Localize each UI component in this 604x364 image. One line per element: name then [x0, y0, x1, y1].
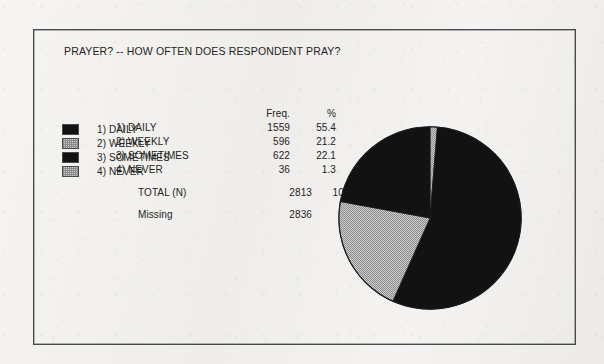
- legend-label-weekly: 2) WEEKLY: [97, 138, 151, 149]
- legend: [62, 122, 79, 179]
- row-freq: 36: [242, 164, 290, 175]
- total-freq: 2813: [264, 187, 312, 198]
- legend-label-row: 1) DAILY: [97, 122, 170, 136]
- legend-swatch-sometimes: [62, 152, 79, 163]
- row-pct: 55.4: [290, 122, 336, 133]
- legend-labels: 1) DAILY 2) WEEKLY 3) SOMETIMES 4) NEVER: [97, 122, 170, 179]
- legend-label-row: 2) WEEKLY: [97, 136, 170, 150]
- legend-label-sometimes: 3) SOMETIMES: [97, 152, 170, 163]
- row-freq: 596: [242, 136, 290, 147]
- row-freq: 622: [242, 150, 290, 161]
- missing-label: Missing: [116, 209, 264, 220]
- legend-item: [62, 122, 79, 136]
- row-freq: 1559: [242, 122, 290, 133]
- legend-label-daily: 1) DAILY: [97, 124, 138, 135]
- pie-slices: [339, 127, 521, 309]
- row-pct: 22.1: [290, 150, 336, 161]
- pie-chart: [338, 126, 522, 310]
- table-spacer: [116, 199, 358, 207]
- legend-swatch-daily: [62, 124, 79, 135]
- table-total-row: TOTAL (N) 2813 100.0: [116, 185, 358, 199]
- legend-item: [62, 165, 79, 179]
- legend-swatch-never: [62, 166, 79, 177]
- total-label: TOTAL (N): [116, 187, 264, 198]
- table-missing-row: Missing 2836: [116, 207, 358, 221]
- column-header-pct: %: [290, 108, 336, 119]
- row-pct: 21.2: [290, 136, 336, 147]
- legend-label-row: 3) SOMETIMES: [97, 150, 170, 164]
- pie-chart-svg: [338, 126, 522, 310]
- page-title: PRAYER? -- HOW OFTEN DOES RESPONDENT PRA…: [64, 45, 340, 57]
- legend-label-never: 4) NEVER: [97, 166, 144, 177]
- legend-swatch-weekly: [62, 138, 79, 149]
- missing-freq: 2836: [264, 209, 312, 220]
- legend-item: [62, 150, 79, 164]
- row-pct: 1.3: [290, 164, 336, 175]
- column-header-freq: Freq.: [242, 108, 290, 119]
- pie-slice: [340, 127, 430, 218]
- legend-item: [62, 136, 79, 150]
- legend-label-row: 4) NEVER: [97, 165, 170, 179]
- table-header-row: Freq. %: [116, 106, 358, 120]
